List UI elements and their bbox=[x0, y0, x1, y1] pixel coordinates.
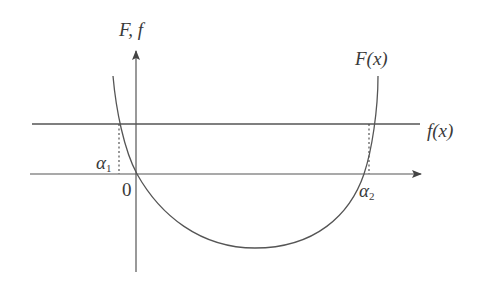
function-diagram bbox=[0, 0, 491, 281]
origin-label: 0 bbox=[122, 180, 132, 199]
F-curve bbox=[113, 76, 378, 248]
alpha2-label: α2 bbox=[359, 181, 374, 202]
f-line-label: f(x) bbox=[427, 121, 453, 140]
F-curve-label: F(x) bbox=[355, 49, 388, 68]
y-axis-label: F, f bbox=[119, 20, 143, 39]
alpha1-label: α1 bbox=[96, 153, 111, 174]
